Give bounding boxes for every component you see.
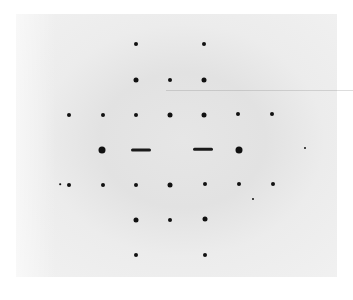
diffraction-spot [304,147,306,149]
diffraction-spot [168,113,173,118]
diffraction-spot [202,78,207,83]
diffraction-spot [236,147,243,154]
diffraction-streak [193,148,213,151]
diffraction-spot [99,147,106,154]
diffraction-streak [131,149,151,152]
diffraction-spot [59,183,61,185]
diffraction-spot [101,183,105,187]
scratch-line [166,90,353,91]
diffraction-spot [202,42,206,46]
diffraction-spot [134,113,138,117]
diffraction-spot [134,253,138,257]
diffraction-spot [203,217,208,222]
diffraction-spot [67,113,71,117]
diffraction-spot [270,112,274,116]
diffraction-spot [134,42,138,46]
diffraction-spot [237,182,241,186]
diffraction-photo [16,14,337,277]
diffraction-spot [168,78,172,82]
diffraction-spot [134,183,138,187]
diffraction-spot [134,218,139,223]
diffraction-spot [252,198,254,200]
diffraction-spot [168,218,172,222]
diffraction-spot [101,113,105,117]
diffraction-spot [202,113,207,118]
diffraction-spot [271,182,275,186]
diffraction-spot [203,253,207,257]
diffraction-spot [134,78,139,83]
diffraction-spot [236,112,240,116]
diffraction-spot [168,183,173,188]
diffraction-spot [203,182,207,186]
diffraction-spot [67,183,71,187]
